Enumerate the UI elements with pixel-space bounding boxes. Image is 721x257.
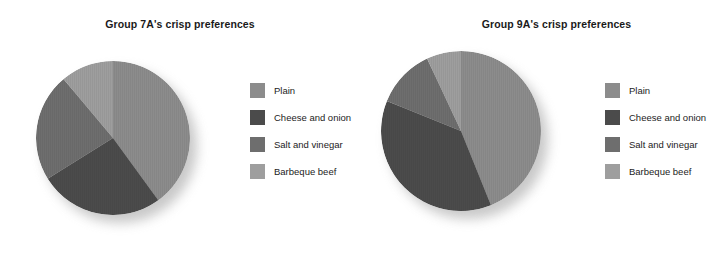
- legend-group-7a: Plain Cheese and onion Salt and vinegar …: [250, 83, 351, 179]
- pie-slices: [36, 61, 190, 215]
- legend-label-cheese-and-onion: Cheese and onion: [629, 112, 706, 123]
- legend-item-cheese-and-onion[interactable]: Cheese and onion: [250, 110, 351, 125]
- legend-swatch-plain: [250, 83, 265, 98]
- pie-chart-group-9a: [381, 51, 541, 211]
- legend-label-salt-and-vinegar: Salt and vinegar: [274, 139, 343, 150]
- legend-label-cheese-and-onion: Cheese and onion: [274, 112, 351, 123]
- chart-panel-group-7a: Group 7A's crisp preferences: [0, 0, 360, 257]
- legend-item-salt-and-vinegar-secondary[interactable]: Salt and vinegar: [605, 137, 706, 152]
- legend-swatch-plain: [605, 83, 620, 98]
- legend-item-barbeque-beef-secondary[interactable]: Barbeque beef: [605, 164, 706, 179]
- legend-swatch-salt-and-vinegar: [605, 137, 620, 152]
- legend-label-barbeque-beef: Barbeque beef: [274, 166, 336, 177]
- pie-chart-figure: Group 7A's crisp preferences: [0, 0, 721, 257]
- legend-swatch-cheese-and-onion: [250, 110, 265, 125]
- legend-group-9a: Plain Cheese and onion Salt and vinegar …: [605, 83, 706, 179]
- legend-swatch-cheese-and-onion: [605, 110, 620, 125]
- legend-label-salt-and-vinegar: Salt and vinegar: [629, 139, 698, 150]
- legend-item-plain-secondary[interactable]: Plain: [605, 83, 706, 98]
- pie-chart-group-7a: [36, 61, 190, 215]
- legend-swatch-salt-and-vinegar: [250, 137, 265, 152]
- pie-svg: [36, 61, 190, 215]
- pie-svg-secondary: [381, 51, 541, 211]
- legend-label-plain: Plain: [274, 85, 295, 96]
- legend-label-barbeque-beef: Barbeque beef: [629, 166, 691, 177]
- pie-slices-secondary: [381, 51, 541, 211]
- legend-label-plain: Plain: [629, 85, 650, 96]
- legend-item-plain[interactable]: Plain: [250, 83, 351, 98]
- legend-swatch-barbeque-beef: [250, 164, 265, 179]
- chart-panel-group-9a: Group 9A's crisp preferences: [360, 0, 721, 257]
- legend-item-salt-and-vinegar[interactable]: Salt and vinegar: [250, 137, 351, 152]
- page-title-secondary: Group 9A's crisp preferences: [360, 18, 721, 31]
- legend-item-barbeque-beef[interactable]: Barbeque beef: [250, 164, 351, 179]
- legend-item-cheese-and-onion-secondary[interactable]: Cheese and onion: [605, 110, 706, 125]
- legend-swatch-barbeque-beef: [605, 164, 620, 179]
- page-title: Group 7A's crisp preferences: [0, 18, 360, 31]
